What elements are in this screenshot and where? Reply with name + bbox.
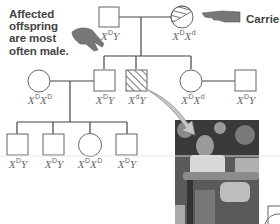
- genotype-label: XDY: [237, 93, 255, 106]
- pedigree-diagram: [0, 0, 280, 224]
- genotype-label: XDY: [118, 157, 136, 170]
- genotype-label: XDXD: [28, 93, 53, 106]
- genotype-label: XDY: [45, 157, 63, 170]
- genotype-label: XDY: [101, 29, 119, 42]
- genotype-label: XdY: [128, 93, 145, 106]
- gen1-carrier-female: [167, 2, 193, 28]
- genotype-label: XDXD: [78, 157, 103, 170]
- genotype-label: XDXd: [172, 29, 195, 42]
- genotype-label: XDY: [96, 93, 114, 106]
- gen1-male: [99, 7, 119, 27]
- genotype-label: XDY: [9, 157, 27, 170]
- pointing-hand-icon: [72, 28, 104, 51]
- pointing-hand-icon: [202, 11, 240, 22]
- genotype-label: XDXd: [181, 93, 204, 106]
